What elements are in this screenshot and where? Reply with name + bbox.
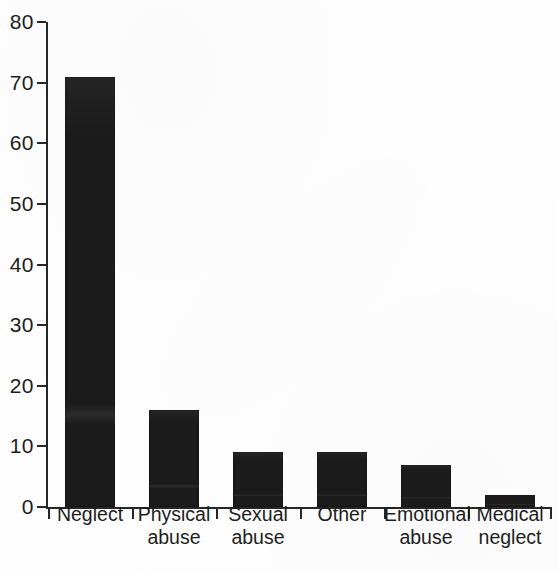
y-tick-label-40: 40 bbox=[10, 253, 34, 277]
x-tick-label: Emotional abuse bbox=[384, 503, 468, 549]
y-tick-70 bbox=[37, 82, 46, 84]
y-tick-50 bbox=[37, 203, 46, 205]
x-tick-label: Sexual abuse bbox=[216, 503, 300, 549]
y-axis-line bbox=[46, 22, 48, 508]
x-tick-label: Other bbox=[300, 503, 384, 526]
bar bbox=[149, 410, 199, 507]
y-tick-30 bbox=[37, 324, 46, 326]
y-tick-label-60: 60 bbox=[10, 131, 34, 155]
bar bbox=[401, 465, 451, 507]
y-tick-40 bbox=[37, 264, 46, 266]
x-tick-label: Neglect bbox=[48, 503, 132, 526]
y-tick-0 bbox=[37, 506, 46, 508]
y-tick-80 bbox=[37, 21, 46, 23]
bar-chart-figure: 01020304050607080 NeglectPhysical abuseS… bbox=[0, 0, 558, 572]
y-tick-60 bbox=[37, 142, 46, 144]
bar bbox=[317, 452, 367, 507]
y-tick-label-70: 70 bbox=[10, 71, 34, 95]
y-tick-label-0: 0 bbox=[22, 495, 34, 519]
y-tick-label-20: 20 bbox=[10, 374, 34, 398]
x-tick-label: Physical abuse bbox=[132, 503, 216, 549]
y-tick-label-80: 80 bbox=[10, 10, 34, 34]
y-tick-label-10: 10 bbox=[10, 434, 34, 458]
bar bbox=[65, 77, 115, 507]
y-tick-label-30: 30 bbox=[10, 313, 34, 337]
y-tick-label-50: 50 bbox=[10, 192, 34, 216]
bar bbox=[233, 452, 283, 507]
x-tick-label: Medical neglect bbox=[468, 503, 552, 549]
plot-area: 01020304050607080 bbox=[48, 22, 552, 507]
y-tick-10 bbox=[37, 445, 46, 447]
y-tick-20 bbox=[37, 385, 46, 387]
